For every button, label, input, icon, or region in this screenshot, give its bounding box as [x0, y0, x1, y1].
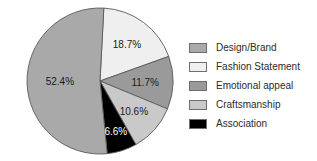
legend-color-swatch — [189, 119, 207, 129]
legend-item[interactable]: Emotional appeal — [189, 76, 315, 95]
legend-item-label: Craftsmanship — [216, 100, 280, 110]
slice-value-label: 52.4% — [46, 76, 74, 87]
legend-item[interactable]: Fashion Statement — [189, 57, 315, 76]
legend-item[interactable]: Association — [189, 114, 315, 133]
legend-color-swatch — [189, 62, 207, 72]
chart-legend: Design/BrandFashion StatementEmotional a… — [189, 38, 315, 133]
pie-svg: 18.7%11.7%10.6%6.6%52.4% — [24, 6, 176, 156]
legend-item-label: Association — [216, 119, 267, 129]
legend-item[interactable]: Design/Brand — [189, 38, 315, 57]
pie-chart-plot: 18.7%11.7%10.6%6.6%52.4% — [24, 6, 176, 156]
legend-item[interactable]: Craftsmanship — [189, 95, 315, 114]
legend-color-swatch — [189, 43, 207, 53]
slice-value-label: 10.6% — [120, 106, 148, 117]
legend-item-label: Design/Brand — [216, 43, 277, 53]
legend-item-label: Fashion Statement — [216, 62, 300, 72]
legend-item-label: Emotional appeal — [216, 81, 293, 91]
slice-value-label: 11.7% — [131, 77, 159, 88]
legend-color-swatch — [189, 100, 207, 110]
pie-chart-figure: 18.7%11.7%10.6%6.6%52.4% Design/BrandFas… — [0, 0, 317, 161]
legend-color-swatch — [189, 81, 207, 91]
slice-value-label: 18.7% — [113, 39, 141, 50]
slice-value-label: 6.6% — [104, 126, 127, 137]
